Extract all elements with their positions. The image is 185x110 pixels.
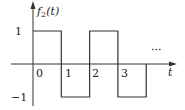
y-tick-pos: 1 xyxy=(15,25,22,38)
y-axis-arrow-icon xyxy=(31,1,36,9)
x-tick-0: 0 xyxy=(36,67,43,80)
square-wave-chart: f2(t) 1 −1 0 1 2 3 t ··· xyxy=(0,0,185,110)
y-tick-neg: −1 xyxy=(11,91,27,104)
y-axis-label: f2(t) xyxy=(36,5,59,19)
continuation-ellipsis: ··· xyxy=(151,44,162,57)
x-tick-2: 2 xyxy=(92,67,99,80)
x-tick-1: 1 xyxy=(65,67,72,80)
x-tick-3: 3 xyxy=(121,67,128,80)
x-axis-label: t xyxy=(168,66,173,79)
